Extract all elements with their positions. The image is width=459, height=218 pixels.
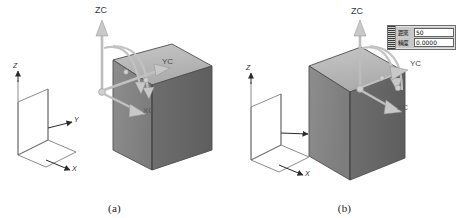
panel-a: ZC YC XC Z Y X (a) xyxy=(0,0,229,218)
datum-label-y-a: Y xyxy=(74,116,79,123)
dialog-field-rows: 距离 50 精度 0.0000 xyxy=(396,26,455,49)
datum-label-z-b: Z xyxy=(246,64,250,71)
datum-label-x-a: X xyxy=(72,165,77,172)
precision-input[interactable]: 0.0000 xyxy=(414,38,454,47)
axis-label-yc-b: YC xyxy=(410,60,421,68)
datum-axis-arrows-a xyxy=(18,71,72,170)
axis-label-xc-b: XC xyxy=(397,104,408,112)
panel-a-graphics xyxy=(0,0,229,218)
axis-label-xc-a: XC xyxy=(143,107,154,115)
inline-value-entry-dialog[interactable]: 距离 50 精度 0.0000 xyxy=(387,25,456,50)
precision-field-label: 精度 xyxy=(398,38,412,47)
dialog-row-precision: 精度 0.0000 xyxy=(398,38,454,48)
axis-label-zc-b: ZC xyxy=(351,7,363,16)
dialog-grip-handle[interactable] xyxy=(388,26,396,49)
datum-label-z-a: Z xyxy=(13,62,17,69)
distance-input[interactable]: 50 xyxy=(414,28,454,37)
panel-b-caption: (b) xyxy=(230,202,459,214)
datum-csys-b xyxy=(251,82,309,172)
datum-label-x-b: X xyxy=(305,170,310,177)
panel-a-caption: (a) xyxy=(0,202,229,214)
datum-axis-arrows-b xyxy=(251,73,308,175)
figure-container: ZC YC XC Z Y X (a) xyxy=(0,0,459,218)
dialog-row-distance: 距离 50 xyxy=(398,28,454,38)
axis-label-yc-a: YC xyxy=(162,58,173,66)
distance-field-label: 距离 xyxy=(398,28,412,37)
axis-label-zc-a: ZC xyxy=(95,6,107,15)
